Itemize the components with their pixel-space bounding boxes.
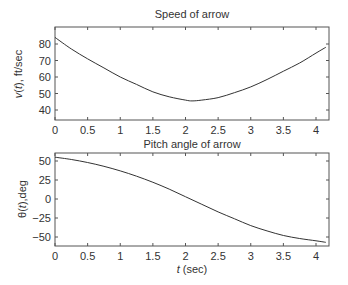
x-tick-label: 3.5 [276,250,291,262]
pitch-plot: Pitch angle of arrow 00.511.522.533.54 −… [16,138,329,275]
x-tick-label: 4 [313,250,319,262]
x-tick-label: 1 [117,250,123,262]
pitch-plot-x-label: t (sec) [177,263,208,275]
speed-plot: Speed of arrow 00.511.522.533.54 4050607… [12,8,329,136]
x-tick-label: 1 [117,124,123,136]
pitch-plot-y-ticks: −50−2502550 [32,155,329,243]
x-tick-label: 0.5 [80,250,95,262]
y-tick-label: 60 [39,71,51,83]
y-tick-label: 0 [45,193,51,205]
y-tick-label: 50 [39,88,51,100]
x-tick-label: 1.5 [145,124,160,136]
y-tick-label: 80 [39,38,51,50]
x-tick-label: 3 [248,250,254,262]
y-tick-label: −50 [32,231,51,243]
y-tick-label: 25 [39,174,51,186]
speed-plot-y-ticks: 4050607080 [39,38,329,116]
x-tick-label: 2 [182,250,188,262]
x-tick-label: 2.5 [210,250,225,262]
x-tick-label: 3 [248,124,254,136]
y-tick-label: 50 [39,155,51,167]
x-tick-label: 0 [52,124,58,136]
y-tick-label: 70 [39,55,51,67]
x-tick-label: 0 [52,250,58,262]
x-tick-label: 2.5 [210,124,225,136]
speed-curve [55,37,326,101]
y-tick-label: −25 [32,212,51,224]
pitch-plot-title: Pitch angle of arrow [143,138,240,150]
speed-plot-title: Speed of arrow [155,8,230,20]
pitch-plot-y-label: θ(t),deg [16,180,28,218]
speed-plot-y-label: v(t), ft/sec [12,49,24,98]
x-tick-label: 2 [182,124,188,136]
x-tick-label: 4 [313,124,319,136]
chart-figure: Speed of arrow 00.511.522.533.54 4050607… [0,0,348,285]
x-tick-label: 0.5 [80,124,95,136]
x-tick-label: 3.5 [276,124,291,136]
y-tick-label: 40 [39,104,51,116]
x-tick-label: 1.5 [145,250,160,262]
pitch-curve [55,157,326,242]
speed-plot-frame [55,27,329,120]
